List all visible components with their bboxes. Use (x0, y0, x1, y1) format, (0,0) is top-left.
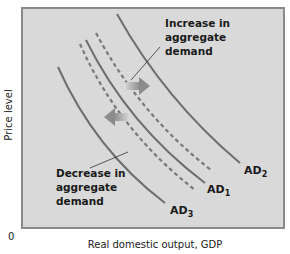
x-axis-label: Real domestic output, GDP (88, 239, 223, 250)
aggregate-demand-diagram: Increase in aggregate demand Decrease in… (0, 0, 290, 254)
y-axis-label: Price level (3, 89, 14, 140)
origin-label: 0 (8, 231, 14, 242)
